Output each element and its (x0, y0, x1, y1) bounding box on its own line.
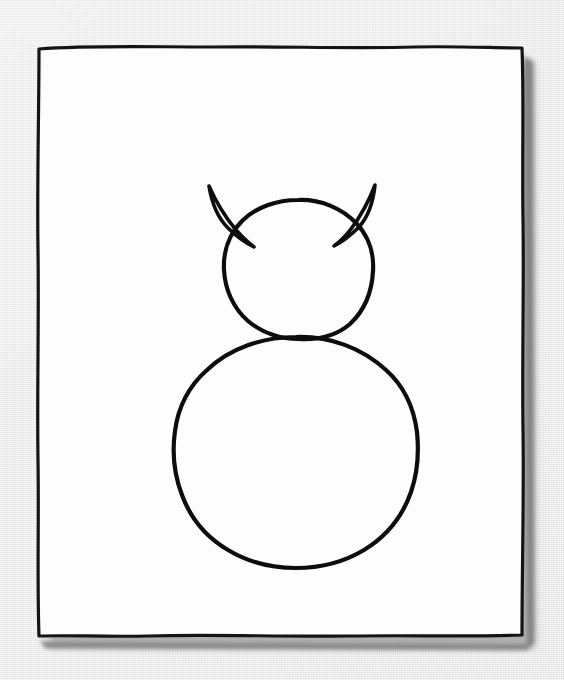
sketch-illustration (0, 0, 564, 680)
scene-canvas (0, 0, 564, 680)
paper-sheet (38, 47, 524, 637)
